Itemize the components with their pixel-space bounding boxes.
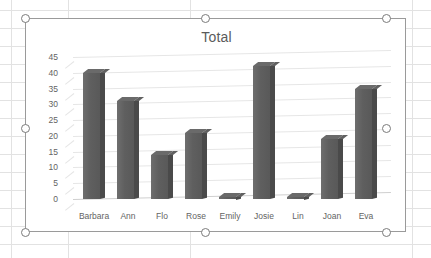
chart-object[interactable]: Total 454035302520151050 BarbaraAnnFloRo… xyxy=(25,18,406,232)
bar-side-face xyxy=(338,138,343,199)
resize-handle-bottom-right[interactable] xyxy=(382,228,391,237)
y-axis-tick-label: 0 xyxy=(30,195,58,203)
y-axis-tick-label: 10 xyxy=(30,163,58,171)
bar-side-face xyxy=(168,154,173,199)
resize-handle-top-right[interactable] xyxy=(382,14,391,23)
x-axis-category-labels: BarbaraAnnFloRoseEmilyJosieLinJoanEva xyxy=(63,211,393,225)
bar-front-face xyxy=(321,139,338,199)
bar-side-face xyxy=(100,72,105,199)
bar-front-face xyxy=(83,73,100,199)
bar[interactable] xyxy=(287,193,309,200)
bar-top-side-face xyxy=(270,62,280,66)
y-axis-tick-label: 45 xyxy=(30,53,58,61)
x-axis-category-label: Eva xyxy=(343,211,389,221)
bar-front-face xyxy=(151,155,168,199)
bar-series[interactable] xyxy=(63,57,393,207)
bar-front-face xyxy=(117,101,134,199)
resize-handle-bottom-left[interactable] xyxy=(21,228,30,237)
y-axis-tick-label: 30 xyxy=(30,100,58,108)
chart-plot-area[interactable]: 454035302520151050 xyxy=(63,57,393,207)
resize-handle-bottom-center[interactable] xyxy=(201,228,210,237)
bar-front-face xyxy=(355,89,372,199)
resize-handle-top-left[interactable] xyxy=(21,14,30,23)
sheet-column-gridline xyxy=(11,0,12,258)
bar-side-face xyxy=(134,100,139,199)
bar-side-face xyxy=(202,132,207,199)
bar-side-face xyxy=(372,87,377,199)
resize-handle-middle-right[interactable] xyxy=(382,124,391,133)
sheet-column-gridline xyxy=(412,0,413,258)
bar[interactable] xyxy=(253,62,275,199)
y-axis-tick-label: 35 xyxy=(30,85,58,93)
bar[interactable] xyxy=(117,97,139,199)
sheet-row-gridline xyxy=(0,10,431,11)
resize-handle-top-center[interactable] xyxy=(201,14,210,23)
resize-handle-middle-left[interactable] xyxy=(21,124,30,133)
y-axis-tick-label: 40 xyxy=(30,69,58,77)
sheet-row-gridline xyxy=(0,244,431,245)
y-axis-tick-label: 15 xyxy=(30,148,58,156)
bar[interactable] xyxy=(185,129,207,199)
bar[interactable] xyxy=(151,151,173,199)
y-axis-tick-label: 25 xyxy=(30,116,58,124)
bar[interactable] xyxy=(355,85,377,199)
bar[interactable] xyxy=(83,69,105,199)
chart-title[interactable]: Total xyxy=(26,29,407,45)
bar-front-face xyxy=(185,133,202,199)
bar[interactable] xyxy=(219,193,241,200)
bar-front-face xyxy=(253,66,270,199)
bar[interactable] xyxy=(321,135,343,199)
y-axis-tick-label: 20 xyxy=(30,132,58,140)
y-axis-tick-label: 5 xyxy=(30,179,58,187)
bar-side-face xyxy=(270,65,275,199)
